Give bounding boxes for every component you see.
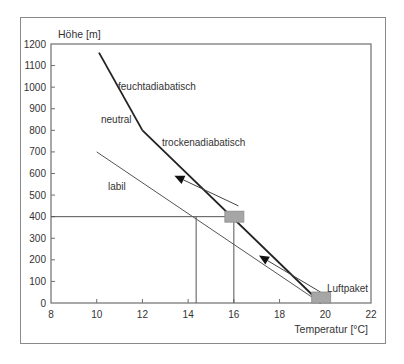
y-tick-label: 1100 (24, 60, 46, 71)
y-tick-label: 900 (29, 103, 46, 114)
arrow-shaft (268, 261, 321, 293)
arrow-head-icon (259, 256, 270, 265)
x-tick-label: 22 (365, 309, 377, 320)
label-feuchtadiabatisch: feuchtadiabatisch (118, 81, 196, 92)
label-luftpaket: Luftpaket (327, 283, 368, 294)
series-labil (97, 152, 321, 303)
x-axis-title: Temperatur [°C] (294, 323, 368, 335)
y-tick-label: 500 (29, 190, 46, 201)
label-neutral: neutral (101, 114, 132, 125)
y-tick-label: 200 (29, 254, 46, 265)
air-parcel-box (225, 211, 244, 222)
arrow-shaft (183, 180, 238, 206)
y-tick-label: 1000 (24, 82, 47, 93)
x-tick-label: 10 (91, 309, 103, 320)
y-axis-title: Höhe [m] (58, 28, 101, 40)
y-tick-label: 300 (29, 233, 46, 244)
y-tick-label: 600 (29, 168, 46, 179)
x-tick-label: 20 (320, 309, 332, 320)
label-labil: labil (108, 181, 126, 192)
reference-lines (51, 217, 234, 303)
y-axis-ticks: 0100200300400500600700800900100011001200 (24, 39, 55, 309)
chart-svg: 0100200300400500600700800900100011001200… (0, 0, 404, 364)
label-trockenadiabatisch: trockenadiabatisch (162, 137, 245, 148)
y-tick-label: 100 (29, 276, 46, 287)
plot-area (51, 44, 371, 303)
x-tick-label: 16 (228, 309, 240, 320)
x-tick-label: 14 (183, 309, 195, 320)
x-tick-label: 8 (48, 309, 54, 320)
y-tick-label: 800 (29, 125, 46, 136)
y-tick-label: 1200 (24, 39, 47, 50)
x-tick-label: 18 (274, 309, 286, 320)
y-tick-label: 700 (29, 146, 46, 157)
x-tick-label: 12 (137, 309, 149, 320)
y-tick-label: 0 (40, 298, 46, 309)
y-tick-label: 400 (29, 211, 46, 222)
